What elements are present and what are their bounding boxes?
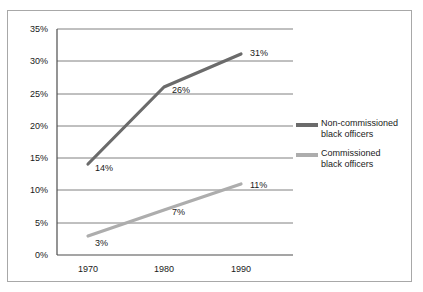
data-label-commissioned-1970: 3% (95, 238, 108, 248)
y-tick-label-35: 35% (14, 24, 48, 34)
legend-label-commissioned-line1: Commissioned (321, 148, 408, 159)
chart-legend: Non-commissioned black officers Commissi… (296, 118, 408, 178)
data-label-non-commissioned-1970: 14% (95, 163, 113, 173)
y-tick-label-15: 15% (14, 153, 48, 163)
data-label-commissioned-1980: 7% (172, 207, 185, 217)
y-tick-label-5: 5% (14, 218, 48, 228)
chart-figure: 35% 30% 25% 20% 15% 10% 5% 0% 1970 1980 … (0, 0, 423, 292)
x-tick-label-1980: 1980 (144, 264, 184, 274)
legend-entry-non-commissioned: Non-commissioned black officers (296, 118, 408, 140)
data-label-non-commissioned-1990: 31% (250, 48, 268, 58)
y-tick-label-25: 25% (14, 89, 48, 99)
x-tick-label-1990: 1990 (221, 264, 261, 274)
legend-entry-commissioned: Commissioned black officers (296, 148, 408, 170)
y-tick-label-10: 10% (14, 185, 48, 195)
legend-label-commissioned-line2: black officers (321, 159, 408, 170)
y-tick-label-30: 30% (14, 56, 48, 66)
legend-swatch-commissioned-icon (296, 153, 318, 157)
legend-label-commissioned: Commissioned black officers (321, 148, 408, 170)
data-label-non-commissioned-1980: 26% (172, 85, 190, 95)
legend-label-non-commissioned-line1: Non-commissioned (321, 118, 408, 129)
data-label-commissioned-1990: 11% (250, 180, 267, 190)
legend-label-non-commissioned: Non-commissioned black officers (321, 118, 408, 140)
x-tick-label-1970: 1970 (68, 264, 108, 274)
y-tick-label-0: 0% (14, 250, 48, 260)
legend-label-non-commissioned-line2: black officers (321, 129, 408, 140)
legend-swatch-non-commissioned-icon (296, 123, 318, 127)
y-tick-label-20: 20% (14, 121, 48, 131)
